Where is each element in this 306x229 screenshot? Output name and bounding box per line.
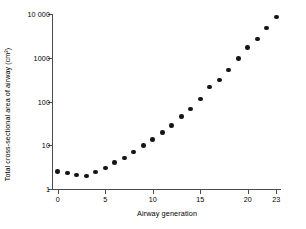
x-tick-mark: [153, 190, 154, 194]
y-tick-label: 10 000: [27, 10, 50, 19]
x-tick-mark: [200, 190, 201, 194]
data-point: [93, 170, 98, 175]
y-tick-label: 100: [38, 97, 50, 106]
x-tick-label: 20: [244, 195, 252, 204]
y-axis-title: Total cross-sectional area of airway (cm…: [0, 0, 16, 229]
data-point: [245, 45, 250, 50]
x-axis-spine: [52, 189, 281, 190]
x-tick-label: 15: [196, 195, 204, 204]
data-point: [188, 107, 193, 112]
plot-area: 110100100010 000 0510152023: [53, 14, 281, 189]
data-point: [226, 68, 231, 73]
data-point: [74, 173, 79, 178]
data-point: [274, 15, 279, 20]
data-point: [55, 169, 60, 174]
data-point: [141, 143, 146, 148]
data-point: [236, 56, 241, 61]
data-point: [207, 85, 212, 90]
data-point: [112, 160, 117, 165]
data-point: [150, 137, 155, 142]
data-point: [169, 123, 174, 128]
data-point: [198, 97, 203, 102]
data-point: [65, 171, 70, 176]
data-point: [264, 26, 269, 31]
y-tick-label: 1000: [34, 53, 50, 62]
x-axis-title: Airway generation: [53, 209, 281, 218]
data-point: [255, 37, 260, 42]
x-tick-mark: [276, 190, 277, 194]
x-tick-mark: [248, 190, 249, 194]
x-tick-label: 5: [103, 195, 107, 204]
x-tick-label: 0: [56, 195, 60, 204]
data-point: [217, 78, 222, 83]
x-tick-label: 23: [272, 195, 280, 204]
x-tick-label: 10: [149, 195, 157, 204]
x-tick-mark: [58, 190, 59, 194]
data-point: [131, 150, 136, 155]
y-tick-label: 10: [42, 141, 50, 150]
data-point: [160, 130, 165, 135]
data-point: [84, 174, 89, 179]
airway-generation-chart: Total cross-sectional area of airway (cm…: [0, 0, 306, 229]
x-tick-mark: [105, 190, 106, 194]
data-point: [122, 156, 127, 161]
data-point: [103, 166, 108, 171]
y-tick-label: 1: [46, 185, 50, 194]
data-point: [179, 114, 184, 119]
